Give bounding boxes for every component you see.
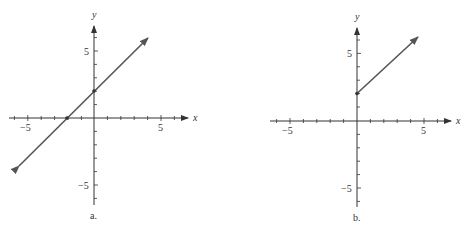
x-tick-label-5: 5 <box>158 122 163 133</box>
graph-a: x y −5 5 5 −5 a. <box>9 9 198 221</box>
panel-label-a: a. <box>90 210 97 221</box>
figure: x y −5 5 5 −5 a. x y −5 5 <box>0 0 472 233</box>
x-axis-label: x <box>192 112 198 123</box>
x-tick-label-neg5: −5 <box>20 122 31 133</box>
ray <box>357 37 418 94</box>
line-y-equals-x-plus-2 <box>19 38 148 166</box>
ray-start-point <box>355 92 359 96</box>
x-axis-label: x <box>455 115 461 126</box>
x-tick-label-neg5: −5 <box>282 125 293 136</box>
x-tick-label-5: 5 <box>421 125 426 136</box>
y-tick-label-5: 5 <box>347 48 352 59</box>
graph-b: x y −5 5 5 −5 b. <box>270 11 461 223</box>
x-intercept-point <box>65 116 69 120</box>
y-intercept-point <box>92 89 96 93</box>
y-tick-label-neg5: −5 <box>78 180 89 191</box>
y-axis-label: y <box>354 11 360 22</box>
panel-label-b: b. <box>353 212 361 223</box>
y-axis-label: y <box>91 9 97 20</box>
y-tick-label-5: 5 <box>84 46 89 57</box>
y-tick-label-neg5: −5 <box>341 183 352 194</box>
